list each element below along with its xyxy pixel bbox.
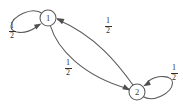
state-node-1[interactable]: 1 <box>40 10 56 26</box>
edge-label-self-loop-2: 1 2 <box>167 64 181 82</box>
edge-label-self-loop-1: 1 2 <box>5 22 19 40</box>
edge-label-self-loop-1-numerator: 1 <box>5 22 19 30</box>
edge-label-self-loop-1-denominator: 2 <box>5 32 19 40</box>
edge-label-self-loop-2-numerator: 1 <box>167 64 181 72</box>
edge-label-2-to-1-denominator: 2 <box>101 27 115 35</box>
edge-1-to-2-path <box>51 26 129 89</box>
state-node-2[interactable]: 2 <box>129 84 145 100</box>
state-node-2-label: 2 <box>135 87 139 97</box>
edge-label-2-to-1-numerator: 1 <box>101 17 115 25</box>
edge-2-to-1-arrowhead <box>56 18 64 24</box>
self-loop-2-arrowhead <box>143 80 151 86</box>
edge-label-1-to-2: 1 2 <box>61 59 75 77</box>
edge-label-2-to-1: 1 2 <box>101 17 115 35</box>
edge-label-self-loop-2-denominator: 2 <box>167 74 181 82</box>
state-node-1-label: 1 <box>46 13 50 23</box>
self-loop-1-arrowhead <box>34 24 42 30</box>
markov-chain-diagram: 1 2 1 2 1 2 1 2 1 2 <box>0 0 183 106</box>
edge-label-1-to-2-denominator: 2 <box>61 69 75 77</box>
diagram-canvas: 1 2 <box>0 0 183 106</box>
edge-label-1-to-2-numerator: 1 <box>61 59 75 67</box>
